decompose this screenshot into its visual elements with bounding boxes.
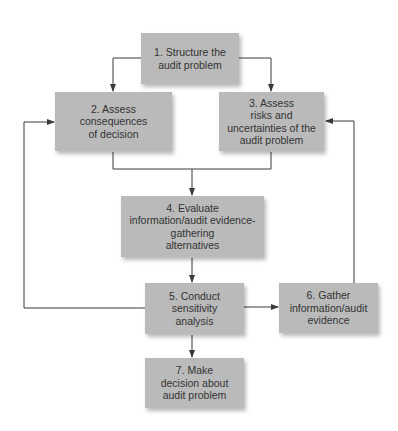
node-make-decision: 7. Make decision about audit problem [145, 358, 244, 408]
edge-1-to-2 [113, 58, 141, 91]
edge-6-to-3 [326, 121, 354, 283]
node-structure-audit-problem: 1. Structure the audit problem [141, 33, 239, 84]
node-gather-evidence: 6. Gather information/audit evidence [279, 283, 378, 333]
node-assess-consequences: 2. Assess consequences of decision [55, 92, 172, 151]
audit-decision-flowchart: 1. Structure the audit problem 2. Assess… [0, 0, 398, 431]
edge-1-to-3 [239, 58, 271, 91]
edge-2-to-merge [113, 152, 271, 169]
node-assess-risks: 3. Assess risks and uncertainties of the… [219, 92, 324, 151]
node-sensitivity-analysis: 5. Conduct sensitivity analysis [145, 283, 244, 334]
node-evaluate-alternatives: 4. Evaluate information/audit evidence- … [121, 196, 264, 257]
